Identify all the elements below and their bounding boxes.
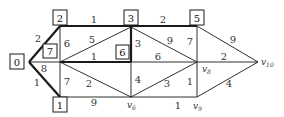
node-2: 2 <box>53 10 67 25</box>
weight-0-2: 2 <box>35 33 41 44</box>
vertex-v8-label: v8 <box>202 64 211 75</box>
graph-diagram: 2 8 1 1 6 5 1 7 2 9 2 3 9 6 4 3 7 1 1 9 … <box>0 0 284 117</box>
vertex-v10-label: v10 <box>261 57 274 68</box>
svg-text:0: 0 <box>14 57 20 68</box>
node-6: 6 <box>116 45 129 59</box>
weight-6-v6: 4 <box>135 74 141 85</box>
weight-3-v8: 9 <box>167 35 173 46</box>
svg-text:3: 3 <box>128 13 134 24</box>
weight-7-3: 5 <box>89 34 95 45</box>
node-0: 0 <box>10 54 24 69</box>
weight-0-7: 8 <box>41 63 47 74</box>
node-3: 3 <box>124 10 138 25</box>
svg-text:2: 2 <box>57 13 63 24</box>
svg-text:7: 7 <box>47 46 53 57</box>
weight-7-v6: 2 <box>86 78 92 89</box>
weight-v9-v10: 4 <box>226 78 232 89</box>
weight-1-v6: 9 <box>91 97 97 108</box>
weight-0-1: 1 <box>34 77 40 88</box>
weight-2-7: 6 <box>64 38 70 49</box>
weight-7-1: 7 <box>64 76 70 87</box>
weight-v8-v10: 2 <box>221 51 227 62</box>
weight-3-5: 2 <box>160 14 166 25</box>
weight-7-6: 1 <box>91 51 97 62</box>
node-5: 5 <box>190 10 204 25</box>
vertex-v9-label: v9 <box>193 101 202 112</box>
weight-6-v8: 6 <box>155 51 161 62</box>
svg-text:1: 1 <box>57 100 63 111</box>
weight-v8-v9: 1 <box>187 76 193 87</box>
edge-5-v10 <box>197 26 258 62</box>
vertex-v6-label: v6 <box>127 100 136 111</box>
weight-v6-v8: 3 <box>164 78 170 89</box>
svg-text:5: 5 <box>194 13 200 24</box>
edge-7-v6 <box>60 62 131 97</box>
weight-v6-v9: 1 <box>175 100 181 111</box>
svg-text:6: 6 <box>119 47 125 58</box>
weight-3-6: 3 <box>135 38 141 49</box>
node-1: 1 <box>53 97 67 112</box>
weight-5-v8: 7 <box>187 36 193 47</box>
node-7: 7 <box>43 44 57 58</box>
weight-5-v10: 9 <box>230 34 236 45</box>
weight-2-3: 1 <box>91 14 97 25</box>
